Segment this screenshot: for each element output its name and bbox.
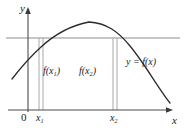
- value-label-fx1-base: f(x: [43, 65, 54, 76]
- origin-label: 0: [21, 112, 27, 123]
- x-axis-arrow-icon: [166, 107, 173, 113]
- function-graph-figure: y x 0 x1 x2 f(x1) f(x2) y = f(x): [0, 0, 184, 133]
- value-label-fx2: f(x2): [79, 66, 96, 76]
- value-label-fx1-subscript: 1: [54, 70, 57, 77]
- value-label-fx1-close: ): [57, 65, 60, 76]
- x-axis-label: x: [172, 115, 177, 126]
- tick-label-x1: x1: [36, 113, 44, 123]
- value-label-fx1: f(x1): [43, 66, 60, 76]
- value-label-fx2-subscript: 2: [90, 70, 93, 77]
- tick-label-x2-subscript: 2: [114, 117, 117, 124]
- y-axis-label: y: [20, 3, 25, 14]
- tick-label-x1-subscript: 1: [40, 117, 43, 124]
- value-label-fx2-base: f(x: [79, 65, 90, 76]
- value-label-fx2-close: ): [93, 65, 96, 76]
- tick-label-x2: x2: [110, 113, 118, 123]
- y-axis-arrow-icon: [25, 7, 31, 14]
- curve-equation-label: y = f(x): [126, 57, 156, 67]
